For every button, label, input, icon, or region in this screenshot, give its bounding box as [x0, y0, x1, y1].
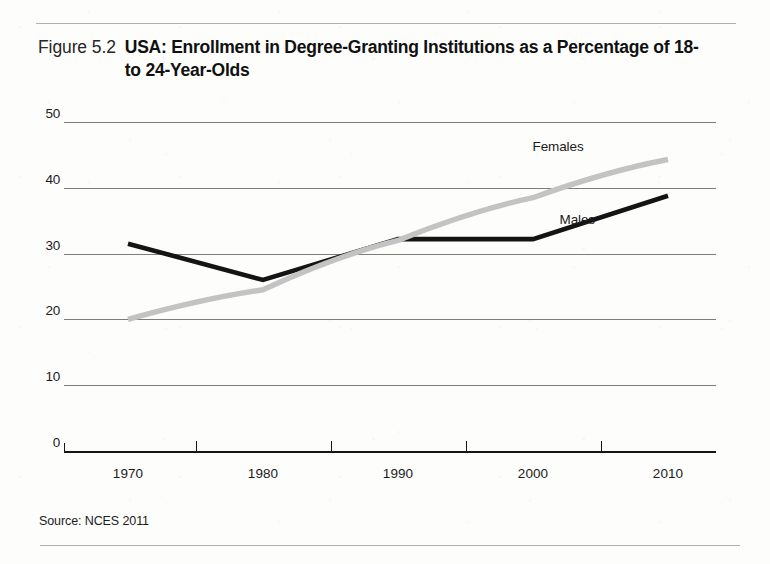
series-label-males: Males [560, 212, 596, 227]
series-line-females [128, 160, 668, 320]
series-label-females: Females [533, 139, 584, 154]
source-note: Source: NCES 2011 [39, 514, 149, 528]
series-lines [0, 0, 770, 564]
line-chart: 0102030405019701980199020002010FemalesMa… [0, 0, 770, 564]
figure-page: Figure 5.2 USA: Enrollment in Degree-Gra… [0, 0, 770, 564]
bottom-divider-rule [40, 545, 740, 546]
